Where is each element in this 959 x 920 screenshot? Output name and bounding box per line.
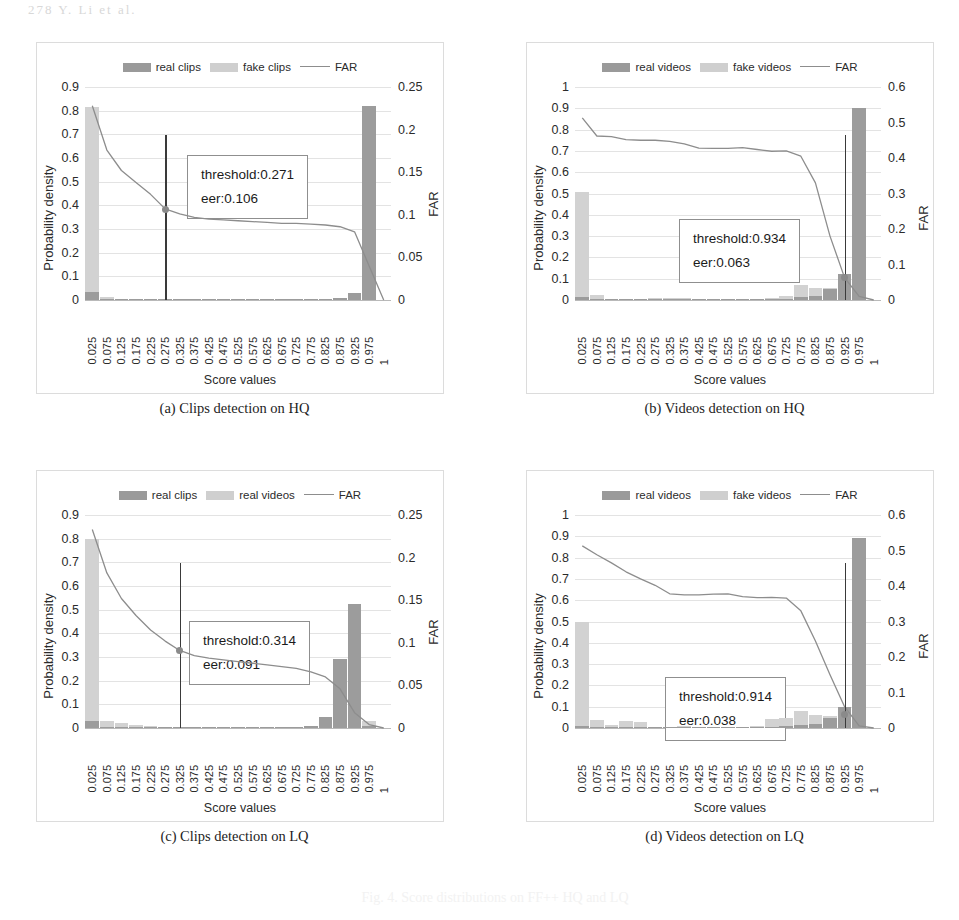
y-tick-right: 0.1 [398,636,415,650]
y-tick-right: 0.25 [398,80,422,94]
x-tick-label: 0.975 [853,765,865,793]
legend-item-far: FAR [304,489,361,501]
x-tick-label: 0.925 [349,337,361,365]
y-tick-left: 1 [533,80,569,94]
y-tick-left: 0.9 [533,101,569,115]
x-tick-label: 0.875 [824,337,836,365]
y-tick-right: 0.6 [888,80,905,94]
y-tick-right: 0.6 [888,508,905,522]
x-tick-label: 0.425 [203,337,215,365]
y-tick-left: 1 [533,508,569,522]
y-tick-left: 0 [43,293,79,307]
y-tick-left: 0.3 [533,657,569,671]
legend-item-far: FAR [300,61,357,73]
x-tick-label: 0.975 [853,337,865,365]
x-tick-label: 0.525 [232,337,244,365]
y-axis-title-right-d: FAR [916,633,931,658]
x-tick-label: 0.975 [363,765,375,793]
caption-a: (a) Clips detection on HQ [0,400,469,417]
x-tick-label: 0.175 [620,337,632,365]
x-tick-label: 0.875 [334,765,346,793]
x-tick-label: 0.925 [349,765,361,793]
x-tick-label: 0.975 [363,337,375,365]
legend-item-fake: fake videos [700,61,791,73]
x-tick-label: 0.575 [737,765,749,793]
x-tick-label: 0.425 [693,765,705,793]
x-tick-label: 0.225 [635,765,647,793]
x-tick-label: 0.325 [664,337,676,365]
legend-item-real: real clips [123,61,201,73]
y-tick-left: 0.1 [533,272,569,286]
x-tick-label: 0.675 [766,765,778,793]
y-tick-left: 0.6 [43,151,79,165]
plot-area-c [85,515,391,729]
y-tick-left: 0.2 [43,246,79,260]
legend-label-real: real videos [635,489,691,501]
x-tick-label: 0.425 [693,337,705,365]
x-tick-label: 0.825 [809,765,821,793]
legend-item-real: real clips [119,489,197,501]
y-tick-left: 0.4 [43,198,79,212]
y-tick-right: 0 [398,721,405,735]
legend-item-far: FAR [800,61,857,73]
y-tick-left: 0.3 [43,650,79,664]
legend-label-far: FAR [339,489,361,501]
x-tick-label: 0.575 [247,337,259,365]
panel-b-cell: real videos fake videos FAR 0.0250.0750.… [490,28,959,438]
x-tick-label: 0.375 [678,765,690,793]
y-tick-left: 0.8 [533,123,569,137]
eer-marker-dot [162,206,169,213]
legend-b: real videos fake videos FAR [527,61,933,73]
y-tick-right: 0.3 [888,187,905,201]
y-tick-right: 0 [888,721,895,735]
x-tick-label: 0.375 [678,337,690,365]
x-tick-label: 0.625 [751,765,763,793]
x-tick-labels-a: 0.0250.0750.1250.1750.2250.2750.3250.375… [85,307,391,365]
x-tick-label: 0.125 [605,337,617,365]
legend-line-far-icon [800,494,830,495]
plot-area-a [85,87,391,301]
y-tick-right: 0.2 [398,123,415,137]
legend-swatch-fake-icon [206,491,234,500]
y-axis-title-right-a: FAR [426,191,441,216]
panel-a: real clips fake clips FAR 0.0250.0750.12… [36,42,444,394]
panel-d: real videos fake videos FAR 0.0250.0750.… [526,470,934,822]
x-tick-label: 0.725 [780,765,792,793]
legend-item-fake: fake videos [700,489,791,501]
y-tick-left: 0.5 [533,187,569,201]
x-tick-label: 0.175 [130,765,142,793]
x-tick-label: 0.775 [795,765,807,793]
x-tick-label: 0.175 [620,765,632,793]
x-tick-label: 0.625 [751,337,763,365]
x-tick-label: 0.275 [159,765,171,793]
y-tick-right: 0.05 [398,250,422,264]
x-tick-label: 0.675 [276,337,288,365]
y-tick-left: 0 [533,721,569,735]
panel-c: real clips real videos FAR 0.0250.0750.1… [36,470,444,822]
x-tick-label: 0.225 [145,765,157,793]
x-tick-label: 0.825 [319,765,331,793]
legend-label-fake: fake videos [733,61,791,73]
y-tick-left: 0.1 [533,700,569,714]
y-tick-left: 0.5 [43,603,79,617]
x-tick-label: 0.775 [305,765,317,793]
y-tick-left: 0.9 [43,80,79,94]
x-tick-label: 0.025 [86,765,98,793]
x-tick-label: 0.675 [276,765,288,793]
x-tick-label: 0.475 [707,765,719,793]
x-tick-label: 0.875 [334,337,346,365]
y-tick-left: 0.3 [43,222,79,236]
legend-label-fake: fake videos [733,489,791,501]
y-tick-left: 0.6 [533,593,569,607]
legend-item-far: FAR [800,489,857,501]
x-tick-label: 0.625 [261,337,273,365]
legend-swatch-fake-icon [700,491,728,500]
x-tick-label: 0.575 [247,765,259,793]
figure-grid: real clips fake clips FAR 0.0250.0750.12… [0,28,959,888]
legend-label-far: FAR [835,61,857,73]
x-tick-label: 0.725 [290,337,302,365]
x-tick-label: 0.325 [174,337,186,365]
x-axis-title-d: Score values [527,801,933,815]
legend-swatch-fake-icon [210,63,238,72]
x-tick-label: 0.825 [319,337,331,365]
